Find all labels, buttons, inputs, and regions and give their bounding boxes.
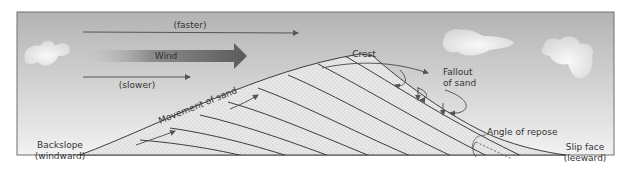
dune-diagram: (faster) Wind (slower) Movement of sand …	[0, 0, 628, 179]
backslope-label-line2: (windward)	[35, 151, 85, 161]
slipface-label-line2: (leeward)	[564, 153, 607, 163]
slipface-label-line1: Slip face	[566, 142, 605, 152]
wind-label: Wind	[155, 51, 178, 61]
crest-label: Crest	[352, 49, 376, 59]
faster-label: (faster)	[173, 20, 206, 30]
slower-label: (slower)	[119, 80, 155, 90]
backslope-label-line1: Backslope	[37, 140, 83, 150]
fallout-label-line1: Fallout	[443, 67, 473, 77]
fallout-label-line2: of sand	[443, 78, 476, 88]
angle-label: Angle of repose	[487, 127, 558, 137]
